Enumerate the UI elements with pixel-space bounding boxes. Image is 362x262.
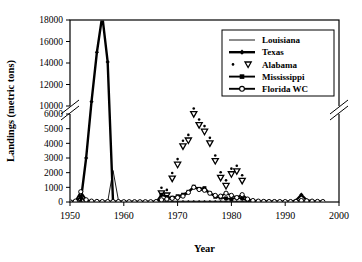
x-tick-label: 1990 xyxy=(275,210,295,221)
data-point-marker xyxy=(176,158,179,161)
x-tick-label: 1960 xyxy=(114,210,134,221)
data-point-marker xyxy=(229,193,233,197)
data-point-marker xyxy=(235,164,238,167)
x-axis-title: Year xyxy=(194,243,215,254)
data-point-marker xyxy=(214,154,217,157)
data-point-marker xyxy=(213,193,217,197)
data-point-marker xyxy=(245,197,249,201)
data-point-marker xyxy=(160,186,163,189)
data-point-marker xyxy=(224,196,228,200)
data-point-marker xyxy=(235,196,239,200)
data-point-marker xyxy=(230,167,233,170)
y-tick-label: 2000 xyxy=(44,168,63,178)
data-point-marker xyxy=(171,172,174,175)
data-point-marker xyxy=(166,189,169,192)
y-tick-label: 0 xyxy=(58,197,63,207)
legend-item-label: Alabama xyxy=(262,60,298,70)
data-point-marker xyxy=(84,198,88,202)
data-point-marker xyxy=(198,118,201,121)
data-point-marker xyxy=(219,171,222,174)
y-tick-label: 1000 xyxy=(44,183,63,193)
data-point-marker xyxy=(192,185,196,189)
data-point-marker xyxy=(170,196,174,200)
data-point-marker xyxy=(182,139,185,142)
data-point-marker xyxy=(176,196,180,200)
data-point-marker xyxy=(100,14,104,18)
legend-item-label: Louisiana xyxy=(262,35,301,45)
x-tick-label: 1950 xyxy=(60,210,80,221)
data-point-marker xyxy=(160,193,164,197)
legend-item-label: Texas xyxy=(262,47,284,57)
data-point-marker xyxy=(209,137,212,140)
data-point-marker xyxy=(187,134,190,137)
legend: LouisianaTexasAlabamaMississippiFlorida … xyxy=(222,30,334,96)
legend-swatch-circle-icon xyxy=(240,86,245,91)
data-point-marker xyxy=(241,174,244,177)
data-point-marker xyxy=(208,191,212,195)
y-tick-label: 4000 xyxy=(44,139,63,149)
data-point-marker xyxy=(79,190,83,194)
x-tick-label: 1970 xyxy=(168,210,188,221)
data-point-marker xyxy=(159,198,163,202)
data-point-marker xyxy=(197,187,201,191)
y-axis-title: Landings (metric tons) xyxy=(5,59,17,162)
y-tick-label: 3000 xyxy=(44,153,63,163)
data-point-marker xyxy=(240,193,244,197)
landings-by-state-line-chart: 0100020003000400050006000100001200014000… xyxy=(0,0,362,262)
y-tick-label: 14000 xyxy=(39,58,63,68)
x-tick-label: 2000 xyxy=(329,210,349,221)
data-point-marker xyxy=(181,194,185,198)
y-tick-label: 12000 xyxy=(39,80,63,90)
y-tick-label: 18000 xyxy=(39,15,63,25)
data-point-marker xyxy=(186,190,190,194)
y-tick-label: 16000 xyxy=(39,37,63,47)
data-point-marker xyxy=(225,179,228,182)
legend-item-label: Mississippi xyxy=(262,72,305,82)
y-tick-label: 10000 xyxy=(39,101,63,111)
data-point-marker xyxy=(165,197,169,201)
y-tick-label: 5000 xyxy=(44,124,63,134)
legend-swatch-dot-icon xyxy=(232,63,235,66)
legend-item-label: Florida WC xyxy=(262,84,308,94)
data-point-marker xyxy=(192,107,195,110)
chart-figure: 0100020003000400050006000100001200014000… xyxy=(0,0,362,262)
data-point-marker xyxy=(224,191,228,195)
data-point-marker xyxy=(202,188,206,192)
legend-swatch-square-icon xyxy=(240,74,245,79)
data-point-marker xyxy=(219,194,223,198)
data-point-marker xyxy=(203,125,206,128)
x-tick-label: 1980 xyxy=(221,210,241,221)
